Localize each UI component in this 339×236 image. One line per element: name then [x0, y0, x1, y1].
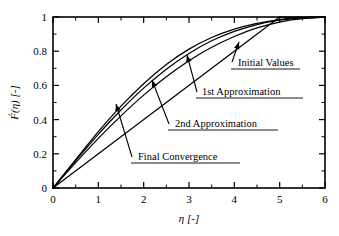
- y-tick-label: 0.6: [33, 79, 47, 91]
- annotation-label: 1st Approximation: [202, 86, 281, 97]
- x-tick-label: 0: [50, 193, 56, 205]
- y-tick-label: 0: [42, 182, 48, 194]
- x-tick-label: 3: [186, 193, 192, 205]
- annotation-label: Initial Values: [238, 57, 294, 68]
- x-tick-label: 6: [322, 193, 328, 205]
- y-tick-label: 0.4: [33, 114, 47, 126]
- x-axis-title: η [-]: [179, 212, 199, 224]
- x-tick-label: 5: [277, 193, 283, 205]
- y-tick-label: 0.8: [33, 45, 47, 57]
- blasius-convergence-chart: 0123456 00.20.40.60.81 Initial Values1st…: [0, 0, 339, 236]
- x-tick-label: 1: [96, 193, 102, 205]
- annotation-label: 2nd Approximation: [175, 118, 258, 129]
- y-tick-label: 0.2: [33, 148, 47, 160]
- annotation-label: Final Convergence: [138, 151, 218, 162]
- figure-canvas: 0123456 00.20.40.60.81 Initial Values1st…: [0, 0, 339, 236]
- y-axis-title: F́(η) [-]: [8, 85, 21, 120]
- x-tick-label: 2: [141, 193, 147, 205]
- y-tick-label: 1: [42, 11, 48, 23]
- x-tick-label: 4: [232, 193, 238, 205]
